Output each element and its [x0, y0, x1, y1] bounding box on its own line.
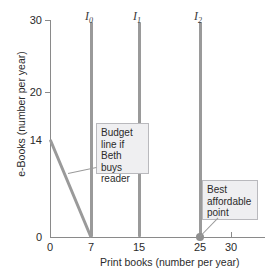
x-axis-line	[50, 237, 265, 238]
budget-line	[48, 139, 92, 238]
callout-budget-line: Budget line if Beth buys reader	[96, 123, 149, 174]
indifference-curve-label-i1: I1	[133, 9, 141, 25]
y-tick-label-30: 30	[12, 14, 42, 26]
x-tick-label-30: 30	[216, 241, 246, 253]
curve-label-sub-i0: 0	[89, 16, 93, 25]
y-axis-title: e-Books (number per year)	[15, 39, 27, 189]
indifference-curve-i0	[90, 22, 93, 237]
leader-line-best-point-callout	[200, 217, 219, 236]
y-axis-line	[50, 20, 51, 238]
callout-budget-line-2: line if	[101, 139, 144, 151]
x-tick-label-25: 25	[185, 241, 215, 253]
callout-best-point-line-3: point	[207, 207, 253, 219]
callout-budget-line-1: Budget	[101, 127, 144, 139]
x-tick-mark-30	[231, 232, 232, 237]
x-tick-label-15: 15	[124, 241, 154, 253]
callout-best-point-line-2: affordable	[207, 196, 253, 208]
curve-label-sub-i2: 2	[198, 16, 202, 25]
curve-label-sub-i1: 1	[137, 16, 141, 25]
x-tick-label-0: 0	[35, 241, 65, 253]
indifference-curve-label-i2: I2	[194, 9, 202, 25]
callout-budget-line-4: reader	[101, 173, 144, 185]
x-axis-title: Print books (number per year)	[100, 256, 239, 268]
callout-best-affordable-point: Best affordable point	[202, 180, 258, 220]
chart-figure: 30 20 14 0 0 7 15 25 30 e-Books (number …	[0, 0, 269, 276]
y-tick-mark-30	[45, 20, 50, 21]
y-tick-mark-20	[45, 92, 50, 93]
callout-budget-line-3: Beth buys	[101, 150, 144, 173]
indifference-curve-label-i0: I0	[85, 9, 93, 25]
callout-best-point-line-1: Best	[207, 184, 253, 196]
x-tick-label-7: 7	[76, 241, 106, 253]
